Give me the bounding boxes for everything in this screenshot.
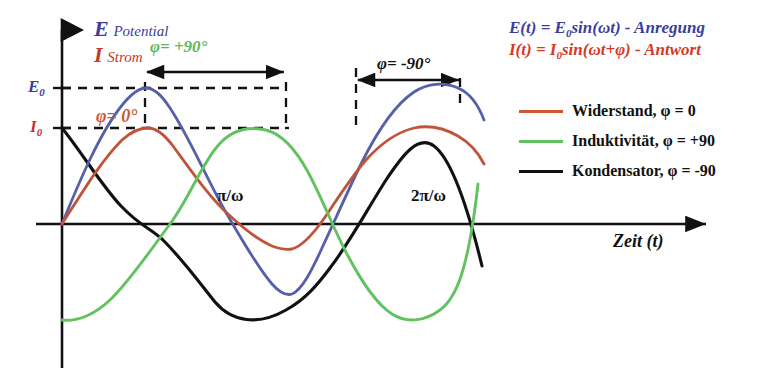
annotation-phi-plus90: φ= +90° xyxy=(150,38,207,55)
y-tick-label-i0: I0 xyxy=(30,118,42,138)
equation-excitation: E(t) = E0sin(ωt) - Anregung xyxy=(509,19,705,39)
e0-subscript: 0 xyxy=(39,86,45,98)
equation-response-lhs: I(t) = I xyxy=(509,40,556,59)
equation-response: I(t) = I0sin(ωt+φ) - Antwort xyxy=(509,41,701,61)
x-tick-label-pi: π/ω xyxy=(217,187,243,204)
legend-label-kondensator: Kondensator, φ = -90 xyxy=(572,162,716,180)
y-tick-label-e0: E0 xyxy=(28,78,45,98)
legend-swatch-induktivitaet xyxy=(519,140,563,143)
chart-figure: E Potential I Strom E0 I0 φ= 0° φ= +90° … xyxy=(0,0,767,377)
chart-legend: Widerstand, φ = 0 Induktivität, φ = +90 … xyxy=(519,96,759,186)
legend-item-widerstand: Widerstand, φ = 0 xyxy=(519,96,759,126)
legend-swatch-widerstand xyxy=(519,110,563,113)
current-word: Strom xyxy=(107,49,142,65)
y-axis-title-current: I Strom xyxy=(94,44,143,66)
legend-swatch-kondensator xyxy=(519,170,563,173)
legend-label-widerstand: Widerstand, φ = 0 xyxy=(572,102,696,120)
phase-arrows xyxy=(147,72,459,80)
equation-response-rhs: sin(ωt+φ) - Antwort xyxy=(562,40,701,59)
current-symbol: I xyxy=(94,42,103,67)
i0-subscript: 0 xyxy=(37,126,43,138)
equation-excitation-lhs: E(t) = E xyxy=(509,18,566,37)
i0-symbol: I xyxy=(30,117,37,136)
potential-symbol: E xyxy=(94,16,109,41)
legend-label-induktivitaet: Induktivität, φ = +90 xyxy=(572,132,715,150)
legend-item-kondensator: Kondensator, φ = -90 xyxy=(519,156,759,186)
x-tick-label-2pi: 2π/ω xyxy=(411,187,446,204)
x-axis-title: Zeit (t) xyxy=(613,232,663,250)
annotation-phi-zero: φ= 0° xyxy=(96,107,137,125)
e0-symbol: E xyxy=(28,77,39,96)
equation-excitation-rhs: sin(ωt) - Anregung xyxy=(571,18,705,37)
legend-item-induktivitaet: Induktivität, φ = +90 xyxy=(519,126,759,156)
annotation-phi-minus90: φ= -90° xyxy=(377,55,430,72)
